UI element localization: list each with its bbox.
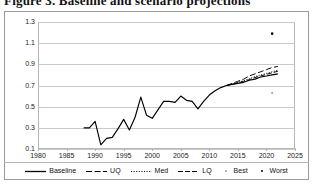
y-axis-tick-label: 1.3	[25, 18, 35, 26]
legend-divider	[4, 162, 309, 163]
legend-label: Best	[234, 167, 248, 175]
legend-label: Worst	[270, 167, 288, 175]
y-axis: 0.10.30.50.70.91.11.3	[8, 22, 35, 149]
legend-marker-best-icon	[222, 168, 231, 175]
legend-item-best[interactable]: Best	[222, 167, 248, 175]
x-axis-tick-label: 1990	[87, 151, 103, 160]
legend-item-worst[interactable]: Worst	[258, 167, 288, 175]
series-line-uq	[226, 66, 277, 85]
legend-marker-worst-icon	[258, 168, 267, 175]
legend-swatch-uq-icon	[86, 168, 107, 175]
y-axis-tick-label: 0.7	[25, 82, 35, 90]
x-axis-tick	[181, 148, 182, 151]
y-axis-tick-label: 0.3	[25, 124, 35, 132]
gridline	[38, 149, 295, 150]
series-line-baseline	[84, 74, 278, 145]
y-axis-tick-label: 0.5	[25, 103, 35, 111]
x-axis-tick-label: 2010	[202, 151, 218, 160]
x-axis-tick-label: 1980	[30, 151, 46, 160]
x-axis-tick-label: 2000	[144, 151, 160, 160]
legend-swatch-med-icon	[131, 168, 152, 175]
data-point-worst	[271, 32, 274, 35]
series-line-lq	[226, 71, 277, 85]
x-axis-tick-label: 1995	[116, 151, 132, 160]
legend-item-uq[interactable]: UQ	[86, 167, 121, 175]
chart-legend: BaselineUQMedLQBestWorst	[4, 164, 309, 178]
legend-label: LQ	[202, 167, 211, 175]
x-axis-tick	[95, 148, 96, 151]
data-point-best	[271, 92, 273, 94]
page-title: Figure 3. Baseline and scenario projecti…	[4, 0, 250, 9]
x-axis-tick-label: 2020	[259, 151, 275, 160]
x-axis-tick	[38, 148, 39, 151]
x-axis-tick	[124, 148, 125, 151]
x-axis-tick	[209, 148, 210, 151]
y-axis-tick-label: 1.1	[25, 39, 35, 47]
x-axis-tick	[238, 148, 239, 151]
x-axis-tick	[67, 148, 68, 151]
chart-canvas	[38, 22, 295, 149]
legend-label: Med	[155, 167, 169, 175]
legend-item-baseline[interactable]: Baseline	[25, 167, 76, 175]
x-axis-tick	[295, 148, 296, 151]
plot-area	[38, 22, 295, 149]
legend-item-lq[interactable]: LQ	[178, 167, 211, 175]
legend-swatch-lq-icon	[178, 168, 199, 175]
legend-swatch-baseline-icon	[25, 168, 46, 175]
x-axis-tick-label: 2005	[173, 151, 189, 160]
y-axis-tick-label: 0.9	[25, 60, 35, 68]
legend-item-med[interactable]: Med	[131, 167, 169, 175]
x-axis-tick-label: 2015	[230, 151, 246, 160]
legend-label: UQ	[110, 167, 121, 175]
chart-figure: Figure 3. Baseline and scenario projecti…	[0, 0, 314, 186]
series-line-med	[226, 70, 277, 85]
x-axis-tick-label: 1985	[59, 151, 75, 160]
x-axis-tick	[266, 148, 267, 151]
x-axis-tick-label: 2025	[287, 151, 303, 160]
figure-title-strip: Figure 3. Baseline and scenario projecti…	[0, 0, 314, 11]
legend-label: Baseline	[49, 167, 76, 175]
x-axis-tick	[152, 148, 153, 151]
